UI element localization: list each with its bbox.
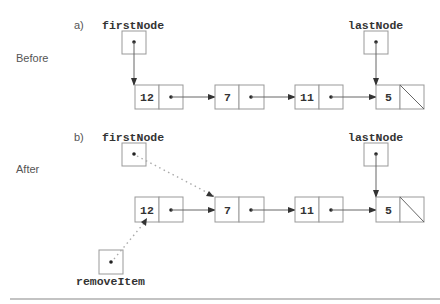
list-node: 5 <box>376 197 424 222</box>
node-value: 7 <box>224 204 231 217</box>
firstnode-label: firstNode <box>102 19 164 32</box>
panel-marker-a: a) <box>74 19 84 31</box>
panel-marker-b: b) <box>74 131 84 143</box>
panel-after: b) After firstNode lastNode 12 7 <box>16 131 424 288</box>
removeitem-label: removeItem <box>76 275 145 288</box>
arrowhead-icon <box>206 191 214 197</box>
linked-list-diagram: a) Before firstNode lastNode 12 7 <box>0 0 440 304</box>
node-value: 11 <box>300 91 314 104</box>
pointer-dot-icon <box>132 152 136 156</box>
node-value: 5 <box>385 204 392 217</box>
before-label: Before <box>16 52 48 64</box>
panel-before: a) Before firstNode lastNode 12 7 <box>16 19 424 109</box>
firstnode-dotted-arrow <box>137 156 214 196</box>
list-node: 5 <box>376 85 424 109</box>
after-label: After <box>16 163 40 175</box>
firstnode-label: firstNode <box>102 131 164 144</box>
node-value: 12 <box>140 204 154 217</box>
node-value: 5 <box>385 91 392 104</box>
lastnode-label: lastNode <box>348 19 403 32</box>
node-value: 12 <box>140 91 154 104</box>
node-value: 11 <box>300 204 314 217</box>
node-value: 7 <box>224 91 231 104</box>
pointer-dot-icon <box>109 260 113 264</box>
lastnode-label: lastNode <box>348 131 403 144</box>
